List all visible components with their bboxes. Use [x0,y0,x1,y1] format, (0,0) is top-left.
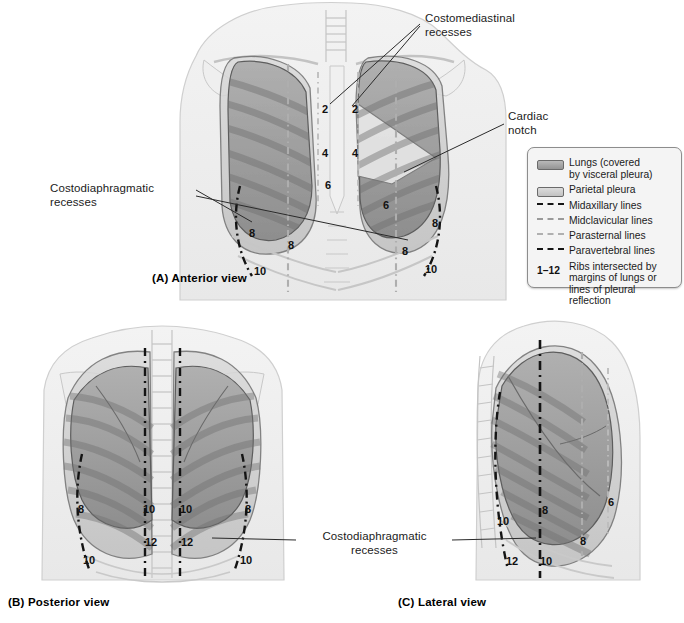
rib-number-anterior-9: 8 [432,218,438,229]
figure-canvas: Costomediastinal recesses Cardiac notch … [0,0,684,623]
legend-item-midclavicular: Midclavicular lines [537,215,673,227]
label-costomediastinal-recesses: Costomediastinal recesses [425,12,515,39]
swatch-pleura-icon [537,184,569,197]
rib-number-posterior-5: 12 [181,537,193,548]
legend-item-midaxillary: Midaxillary lines [537,200,673,212]
rib-number-posterior-0: 8 [78,504,84,515]
rib-number-lateral-5: 12 [506,556,518,567]
legend-label-lungs: Lungs (covered by visceral pleura) [569,157,653,180]
panel-anterior [180,3,506,300]
label-costodiaphragmatic-recesses-lower: Costodiaphragmatic recesses [302,530,447,557]
rib-number-posterior-3: 8 [245,504,251,515]
sternum [330,66,344,214]
rib-number-lateral-2: 8 [580,536,586,547]
rib-number-lateral-0: 6 [608,497,614,508]
legend-item-rib-range: 1–12 Ribs intersected by margins of lung… [537,261,673,307]
rib-number-anterior-1: 2 [352,104,358,115]
caption-panel-anterior: (A) Anterior view [152,272,247,284]
rib-number-anterior-8: 8 [402,246,408,257]
legend-rib-range-value: 1–12 [537,264,560,276]
label-cardiac-notch: Cardiac notch [508,110,548,137]
rib-number-anterior-7: 8 [288,240,294,251]
rib-number-anterior-2: 4 [322,148,328,159]
legend-label-parasternal: Parasternal lines [569,230,646,242]
legend-item-parietal-pleura: Parietal pleura [537,184,673,197]
caption-panel-lateral: (C) Lateral view [398,596,486,608]
rib-number-lateral-3: 10 [497,516,509,527]
rib-number-anterior-6: 8 [249,228,255,239]
rib-number-anterior-11: 10 [425,264,437,275]
rib-number-posterior-1: 10 [143,504,155,515]
legend-label-midaxillary: Midaxillary lines [569,200,642,212]
rib-number-posterior-2: 10 [180,504,192,515]
legend-item-paravertebral: Paravertebral lines [537,245,673,257]
panel-posterior [42,326,296,582]
rib-number-anterior-3: 4 [352,148,358,159]
legend-item-parasternal: Parasternal lines [537,230,673,242]
rib-number-anterior-4: 6 [325,180,331,191]
legend-rib-range-key: 1–12 [537,261,569,276]
legend-label-rib-note: Ribs intersected by margins of lungs or … [569,261,657,307]
legend-label-paravertebral: Paravertebral lines [569,245,655,257]
label-costodiaphragmatic-recesses-anterior: Costodiaphragmatic recesses [50,182,154,209]
dash-dot-line-midclavicular-icon [537,215,569,220]
rib-number-posterior-7: 10 [240,555,252,566]
dash-dot-line-midaxillary-icon [537,200,569,205]
legend-panel: Lungs (covered by visceral pleura) Parie… [527,147,682,288]
rib-number-lateral-1: 8 [542,505,548,516]
panel-lateral [452,321,640,580]
rib-number-anterior-0: 2 [322,104,328,115]
swatch-lung-icon [537,157,569,170]
rib-number-posterior-6: 10 [83,555,95,566]
rib-number-posterior-4: 12 [145,537,157,548]
rib-number-anterior-10: 10 [254,266,266,277]
dash-dot-line-parasternal-icon [537,230,569,235]
caption-panel-posterior: (B) Posterior view [8,596,109,608]
rib-number-lateral-4: 10 [540,556,552,567]
legend-item-lungs: Lungs (covered by visceral pleura) [537,157,673,180]
rib-number-anterior-5: 6 [383,200,389,211]
legend-label-midclavicular: Midclavicular lines [569,215,653,227]
dash-dot-line-paravertebral-icon [537,245,569,250]
legend-label-parietal-pleura: Parietal pleura [569,184,635,196]
